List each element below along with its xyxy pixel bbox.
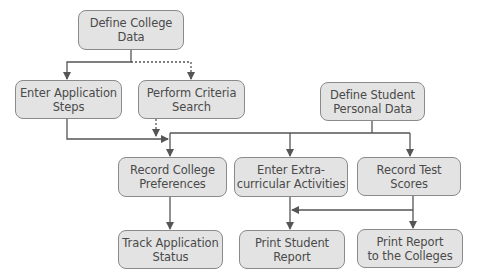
- node-print-student-report: Print Student Report: [239, 230, 345, 269]
- node-record-college-preferences: Record College Preferences: [118, 157, 227, 197]
- node-enter-application-steps: Enter Application Steps: [15, 80, 122, 119]
- edge-college-to-application: [67, 50, 131, 79]
- node-track-application-status: Track Application Status: [118, 230, 223, 269]
- node-define-student-personal-data: Define Student Personal Data: [320, 82, 425, 121]
- node-perform-criteria-search: Perform Criteria Search: [138, 80, 245, 119]
- node-record-test-scores: Record Test Scores: [357, 157, 461, 196]
- edge-college-to-criteria: [131, 62, 191, 79]
- flowchart: Define College Data Enter Application St…: [0, 0, 478, 280]
- node-enter-extracurricular-activities: Enter Extra- curricular Activities: [234, 157, 348, 197]
- node-define-college-data: Define College Data: [78, 10, 184, 50]
- node-print-report-to-colleges: Print Report to the Colleges: [357, 229, 463, 268]
- edge-application-to-preferences: [67, 119, 168, 139]
